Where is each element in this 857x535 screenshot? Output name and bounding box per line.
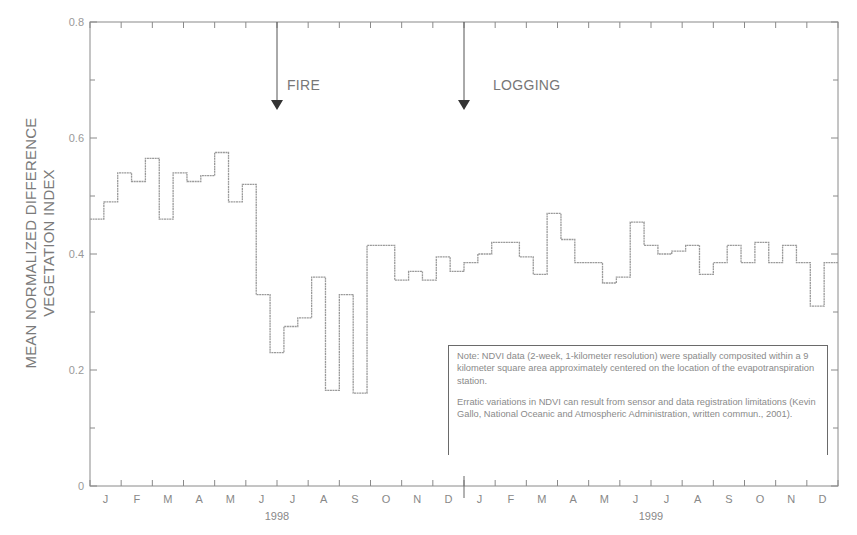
x-month-label: J: [259, 493, 265, 505]
y-axis-label: MEAN NORMALIZED DIFFERENCE VEGETATION IN…: [0, 0, 80, 486]
y-axis-label-line-2: VEGETATION INDEX: [40, 117, 58, 368]
x-month-label: M: [163, 493, 172, 505]
x-month-label: F: [133, 493, 140, 505]
logging-annotation-label: LOGGING: [493, 77, 560, 93]
x-month-label: A: [569, 493, 577, 505]
x-month-label: O: [756, 493, 765, 505]
fire-annotation-label: FIRE: [287, 77, 320, 93]
x-month-label: N: [787, 493, 795, 505]
x-month-label: J: [290, 493, 296, 505]
x-month-label: D: [818, 493, 826, 505]
x-month-label: M: [226, 493, 235, 505]
x-month-label: S: [351, 493, 358, 505]
x-month-label: A: [694, 493, 702, 505]
x-month-label: D: [444, 493, 452, 505]
x-month-label: N: [413, 493, 421, 505]
note-paragraph-2: Erratic variations in NDVI can result fr…: [457, 396, 819, 421]
x-month-label: F: [507, 493, 514, 505]
logging-arrow-head-icon: [458, 100, 470, 110]
fire-arrow-head-icon: [271, 100, 283, 110]
x-year-label: 1999: [639, 510, 663, 522]
y-axis-label-line-1: MEAN NORMALIZED DIFFERENCE: [22, 117, 40, 368]
x-month-label: S: [725, 493, 732, 505]
x-month-label: O: [382, 493, 391, 505]
note-box: Note: NDVI data (2-week, 1-kilometer res…: [448, 345, 828, 455]
x-month-label: J: [633, 493, 639, 505]
x-month-label: A: [320, 493, 328, 505]
x-month-label: A: [195, 493, 203, 505]
event-arrows: [271, 22, 470, 110]
x-month-label: M: [600, 493, 609, 505]
x-month-label: J: [103, 493, 109, 505]
x-month-label: J: [664, 493, 670, 505]
x-year-label: 1998: [265, 510, 289, 522]
note-paragraph-1: Note: NDVI data (2-week, 1-kilometer res…: [457, 350, 819, 387]
x-month-label: J: [477, 493, 483, 505]
x-month-label: M: [537, 493, 546, 505]
